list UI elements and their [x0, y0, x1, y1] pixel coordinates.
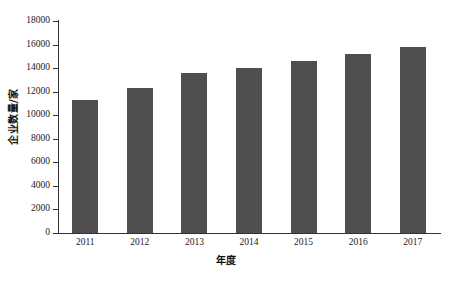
- bar-chart: 企业数量/家 020004000600080001000012000140001…: [0, 0, 452, 281]
- y-axis-tick-mark: [53, 233, 58, 234]
- bar: [236, 68, 262, 233]
- y-axis-tick-label: 10000: [26, 110, 50, 120]
- bar: [72, 100, 98, 233]
- figure-caption-partial: [28, 272, 428, 279]
- y-axis-title: 企业数量/家: [3, 0, 21, 233]
- x-axis-line: [58, 233, 441, 234]
- y-axis-tick-label: 2000: [31, 205, 50, 215]
- x-axis-title: 年度: [0, 252, 452, 267]
- bar: [127, 88, 153, 233]
- bar: [345, 54, 371, 233]
- y-axis-tick-label: 0: [45, 228, 50, 238]
- y-axis-tick-label: 12000: [26, 87, 50, 97]
- y-axis-tick-label: 8000: [31, 134, 50, 144]
- y-axis-tick-label: 14000: [26, 63, 50, 73]
- y-axis-tick-label: 6000: [31, 158, 50, 168]
- bars-layer: [58, 21, 440, 233]
- x-axis-tick-label: 2011: [76, 238, 95, 248]
- x-axis-tick-label: 2015: [294, 238, 313, 248]
- y-axis-title-text: 企业数量/家: [5, 88, 20, 144]
- bar: [291, 61, 317, 233]
- plot-area: 0200040006000800010000120001400016000180…: [58, 21, 440, 233]
- y-axis-tick-label: 16000: [26, 40, 50, 50]
- bar: [181, 73, 207, 233]
- y-axis-tick-label: 4000: [31, 181, 50, 191]
- x-axis-tick-label: 2013: [185, 238, 204, 248]
- x-axis-tick-label: 2016: [349, 238, 368, 248]
- y-axis-tick-label: 18000: [26, 16, 50, 26]
- bar: [400, 47, 426, 233]
- x-axis-tick-label: 2012: [130, 238, 149, 248]
- x-axis-tick-label: 2014: [240, 238, 259, 248]
- x-axis-tick-label: 2017: [403, 238, 422, 248]
